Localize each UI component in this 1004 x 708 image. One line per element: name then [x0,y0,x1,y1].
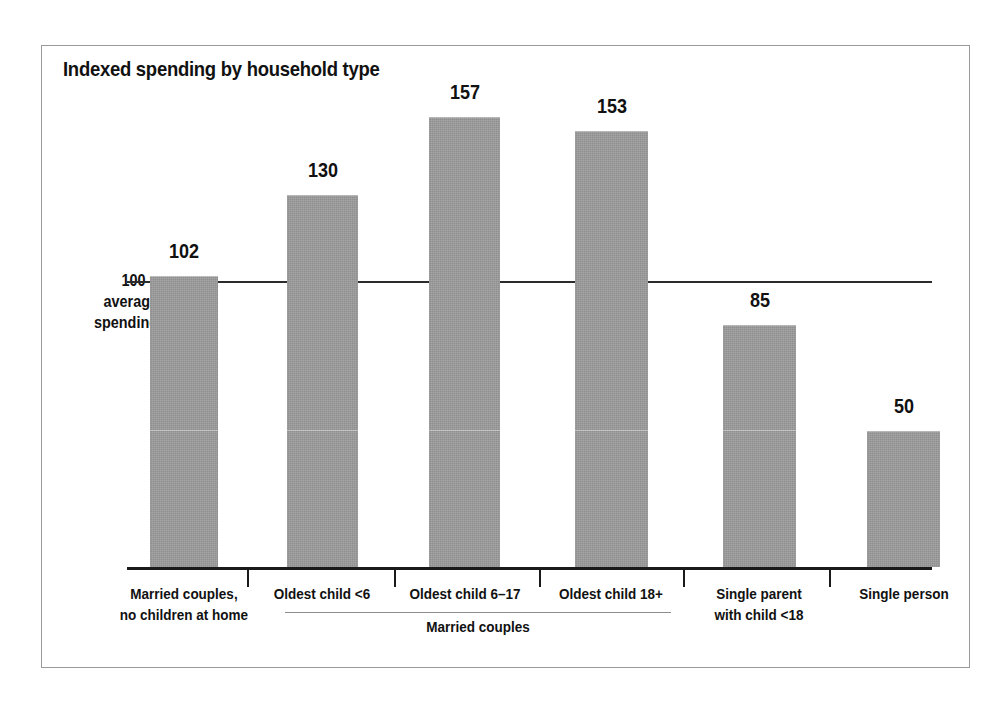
bar-value-label: 157 [429,81,501,104]
bar-value-label: 102 [148,240,220,263]
category-label-married-couples-no-children: Married couples, no children at home [117,583,250,625]
reference-annotation-line-2: average [61,291,158,312]
category-label-line: with child <18 [692,604,825,625]
group-bracket-label: Married couples [304,618,651,635]
chart-figure: Indexed spending by household type 100 =… [0,0,1004,708]
bar-value-label: 153 [576,95,648,118]
category-label-line: Oldest child 6–17 [398,583,531,604]
axis-tick [539,570,541,587]
category-label-line: Oldest child <6 [255,583,388,604]
bar-oldest-child-6-17 [429,117,500,567]
category-label-line: no children at home [117,604,250,625]
category-label-single-person: Single person [837,583,970,604]
bar-single-person [867,431,940,567]
category-label-line: Married couples, [117,583,250,604]
group-bracket-line [285,612,671,613]
bar-value-label: 85 [724,289,796,312]
bar-value-label: 50 [868,395,940,418]
category-label-line: Single person [837,583,970,604]
reference-annotation-line-3: spending [61,312,158,333]
plot-area: 100 = average spending 102 130 157 153 8… [0,0,1004,708]
bar-married-couples-no-children [150,276,218,567]
axis-tick [683,570,685,587]
category-label-oldest-child-18-plus: Oldest child 18+ [544,583,677,604]
category-label-oldest-child-6-17: Oldest child 6–17 [398,583,531,604]
reference-line-100 [127,281,932,283]
axis-tick [829,570,831,587]
bar-single-parent-with-child-under-18 [723,325,796,567]
category-label-single-parent-with-child-under-18: Single parent with child <18 [692,583,825,625]
category-label-line: Oldest child 18+ [544,583,677,604]
reference-line-annotation: 100 = average spending [61,270,158,333]
category-label-line: Single parent [692,583,825,604]
category-label-oldest-child-under-6: Oldest child <6 [255,583,388,604]
bar-value-label: 130 [287,159,359,182]
bar-oldest-child-18-plus [575,131,648,567]
bar-oldest-child-under-6 [287,195,358,567]
axis-tick [394,570,396,587]
